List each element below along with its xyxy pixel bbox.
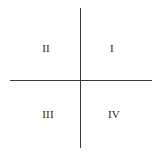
quadrant-label-3: III — [42, 109, 54, 120]
y-axis-line — [80, 8, 81, 148]
quadrant-label-4: IV — [108, 109, 120, 120]
quadrant-label-2: II — [42, 43, 50, 54]
cartesian-quadrant-diagram: II I III IV — [0, 0, 156, 155]
quadrant-label-1: I — [110, 43, 114, 54]
